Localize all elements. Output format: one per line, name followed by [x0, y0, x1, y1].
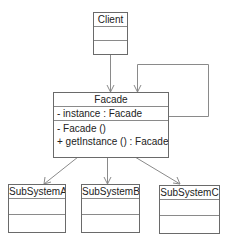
- class-facade[interactable]: Facade - instance : Facade - Facade () +…: [53, 92, 169, 158]
- facade-subsystemc-association: [135, 157, 180, 184]
- class-subsystemb[interactable]: SubSystemB: [81, 184, 140, 233]
- class-name: Client: [94, 13, 127, 27]
- operations-section: [9, 215, 65, 232]
- operation-constructor: - Facade (): [57, 122, 168, 135]
- operations-section: [160, 216, 219, 233]
- class-name: SubSystemB: [82, 185, 139, 199]
- facade-subsystema-association: [44, 157, 78, 184]
- attribute-instance: - instance : Facade: [57, 108, 142, 119]
- operations-section: [94, 41, 127, 54]
- operations-section: [82, 215, 139, 232]
- attributes-section: [160, 200, 219, 216]
- attributes-section: - instance : Facade: [54, 107, 168, 121]
- class-subsystemc[interactable]: SubSystemC: [159, 185, 220, 234]
- class-name: SubSystemC: [160, 186, 219, 200]
- attributes-section: [94, 27, 127, 41]
- class-name: Facade: [54, 93, 168, 107]
- operations-section: - Facade () + getInstance () : Facade: [54, 121, 168, 157]
- class-subsystema[interactable]: SubSystemA: [8, 184, 66, 233]
- operation-getinstance: + getInstance () : Facade: [57, 135, 168, 148]
- attributes-section: [82, 199, 139, 215]
- class-name: SubSystemA: [9, 185, 65, 199]
- class-client[interactable]: Client: [93, 12, 128, 55]
- attributes-section: [9, 199, 65, 215]
